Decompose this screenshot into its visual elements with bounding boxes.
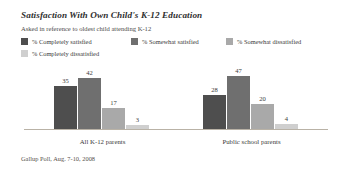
x-axis-line <box>24 129 328 130</box>
bar-rect <box>126 125 149 129</box>
bar-rect <box>102 108 125 129</box>
chart-container: Satisfaction With Own Child's K-12 Educa… <box>0 0 342 174</box>
bar-group-label: Public school parents <box>203 138 300 145</box>
bar-value-label: 28 <box>211 86 218 94</box>
bar-value-label: 4 <box>285 115 288 123</box>
bar-item: 17 <box>102 67 125 129</box>
bar-group-label: All K-12 parents <box>54 138 151 145</box>
legend-item-completely-satisfied: % Completely satisfied <box>21 38 92 45</box>
legend-row-1: % Completely satisfied % Somewhat satisf… <box>21 38 333 50</box>
bar-group-all-k12-parents: 35 42 17 3 All K-12 parents <box>54 67 151 129</box>
bar-value-label: 3 <box>136 116 139 124</box>
bar-group-bars: 28 47 20 4 <box>203 67 300 129</box>
bar-item: 47 <box>227 67 250 129</box>
legend-label: % Completely satisfied <box>32 38 92 45</box>
bar-value-label: 20 <box>259 95 266 103</box>
bar-value-label: 47 <box>235 67 242 75</box>
plot-area: 35 42 17 3 All K-12 parents <box>0 64 342 148</box>
legend-swatch-icon <box>21 38 28 45</box>
bar-rect <box>275 124 298 129</box>
legend-label: % Completely dissatisfied <box>32 50 99 57</box>
legend-label: % Somewhat dissatisfied <box>237 38 301 45</box>
bar-group-public-school-parents: 28 47 20 4 Public school parents <box>203 67 300 129</box>
legend-swatch-icon <box>131 38 138 45</box>
chart-source-note: Gallup Poll, Aug. 7-10, 2008 <box>21 155 95 162</box>
legend-item-somewhat-satisfied: % Somewhat satisfied <box>131 38 199 45</box>
legend-swatch-icon <box>21 50 28 57</box>
chart-title: Satisfaction With Own Child's K-12 Educa… <box>21 10 202 20</box>
legend-item-completely-dissatisfied: % Completely dissatisfied <box>21 50 99 57</box>
bar-item: 42 <box>78 67 101 129</box>
bar-rect <box>227 76 250 129</box>
legend-swatch-icon <box>226 38 233 45</box>
chart-subtitle: Asked in reference to oldest child atten… <box>21 25 151 32</box>
bar-rect <box>54 86 77 129</box>
bar-rect <box>78 78 101 129</box>
bar-value-label: 42 <box>86 69 93 77</box>
bar-value-label: 35 <box>62 77 69 85</box>
bar-rect <box>203 95 226 129</box>
legend-item-somewhat-dissatisfied: % Somewhat dissatisfied <box>226 38 301 45</box>
legend-row-2: % Completely dissatisfied <box>21 50 333 62</box>
legend-label: % Somewhat satisfied <box>142 38 199 45</box>
bar-item: 20 <box>251 67 274 129</box>
bar-item: 28 <box>203 67 226 129</box>
bar-item: 35 <box>54 67 77 129</box>
bar-item: 4 <box>275 67 298 129</box>
bar-item: 3 <box>126 67 149 129</box>
bar-rect <box>251 104 274 129</box>
chart-legend: % Completely satisfied % Somewhat satisf… <box>21 38 333 62</box>
bar-group-bars: 35 42 17 3 <box>54 67 151 129</box>
bar-value-label: 17 <box>110 99 117 107</box>
